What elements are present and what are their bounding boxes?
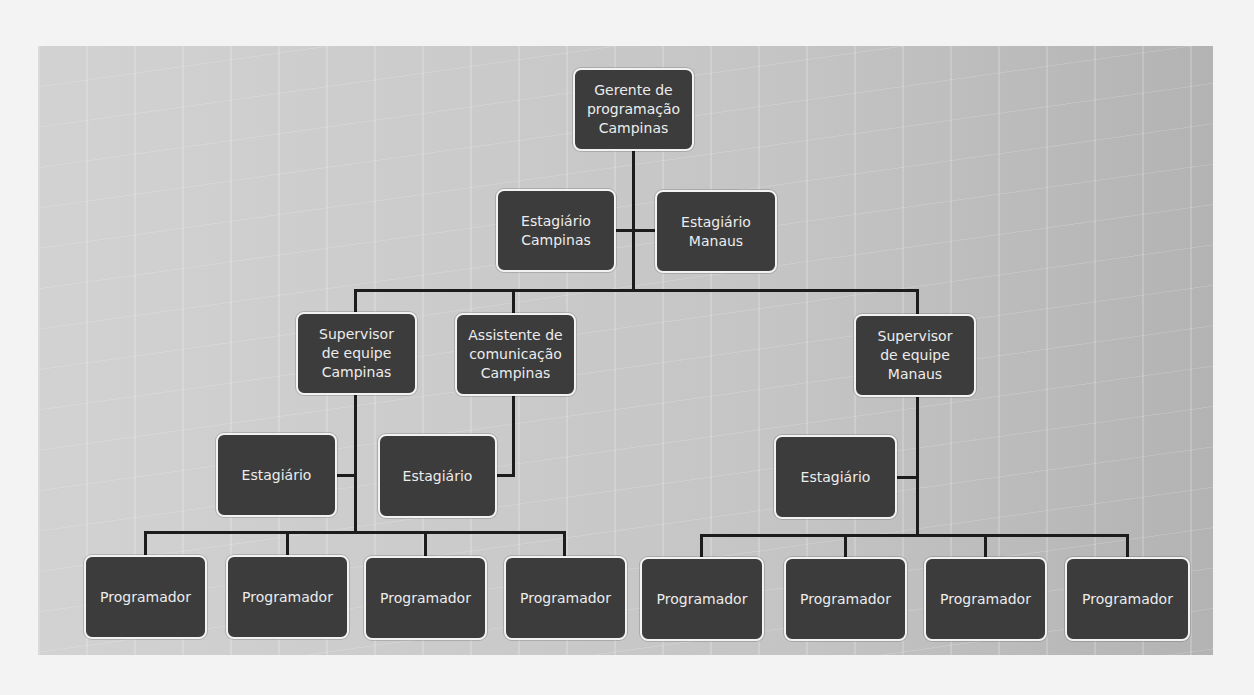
org-node-prog-5: Programador (640, 557, 764, 641)
org-node-label: Estagiário (242, 466, 312, 485)
connector-line (144, 531, 147, 556)
org-node-gerente: Gerente de programação Campinas (573, 68, 694, 151)
org-node-est-sup-campinas: Estagiário (216, 433, 337, 517)
org-node-label: Estagiário (403, 467, 473, 486)
connector-line (354, 394, 357, 534)
org-node-est-manaus: Estagiário Manaus (655, 190, 777, 273)
org-node-prog-2: Programador (226, 555, 349, 639)
org-node-label: Gerente de programação Campinas (587, 81, 680, 138)
connector-line (336, 474, 356, 477)
connector-line (286, 531, 289, 556)
org-node-prog-7: Programador (924, 557, 1047, 641)
org-node-est-assist: Estagiário (378, 434, 497, 518)
org-node-label: Programador (100, 588, 191, 607)
connector-line (563, 531, 566, 557)
org-node-est-campinas: Estagiário Campinas (496, 189, 616, 272)
connector-line (916, 289, 919, 315)
connector-line (144, 531, 566, 534)
org-node-sup-campinas: Supervisor de equipe Campinas (296, 312, 417, 395)
connector-line (844, 534, 847, 558)
connector-line (916, 396, 919, 536)
connector-line (632, 150, 635, 292)
org-node-sup-manaus: Supervisor de equipe Manaus (854, 314, 976, 397)
org-node-label: Estagiário Manaus (681, 213, 751, 251)
connector-line (354, 289, 919, 292)
connector-line (700, 534, 703, 558)
connector-line (354, 289, 357, 313)
org-node-label: Programador (380, 589, 471, 608)
connector-line (896, 476, 918, 479)
org-node-label: Supervisor de equipe Campinas (319, 325, 394, 382)
org-node-label: Estagiário (801, 468, 871, 487)
org-node-label: Estagiário Campinas (521, 212, 591, 250)
org-node-prog-1: Programador (84, 555, 207, 639)
connector-line (496, 474, 515, 477)
org-node-label: Supervisor de equipe Manaus (878, 327, 953, 384)
org-node-label: Programador (242, 588, 333, 607)
connector-line (1126, 534, 1129, 558)
org-node-label: Assistente de comunicação Campinas (468, 326, 562, 383)
org-node-label: Programador (800, 590, 891, 609)
org-node-label: Programador (657, 590, 748, 609)
org-node-label: Programador (520, 589, 611, 608)
org-node-est-sup-manaus: Estagiário (774, 435, 897, 519)
org-node-prog-8: Programador (1065, 557, 1190, 641)
connector-line (424, 531, 427, 557)
org-node-prog-3: Programador (364, 556, 487, 640)
connector-line (512, 289, 515, 314)
connector-line (984, 534, 987, 558)
connector-line (700, 534, 1129, 537)
org-node-prog-4: Programador (504, 556, 627, 640)
connector-line (512, 395, 515, 477)
org-node-prog-6: Programador (784, 557, 907, 641)
org-node-label: Programador (940, 590, 1031, 609)
org-node-label: Programador (1082, 590, 1173, 609)
org-node-assist-campinas: Assistente de comunicação Campinas (455, 313, 576, 396)
connector-line (615, 229, 656, 232)
